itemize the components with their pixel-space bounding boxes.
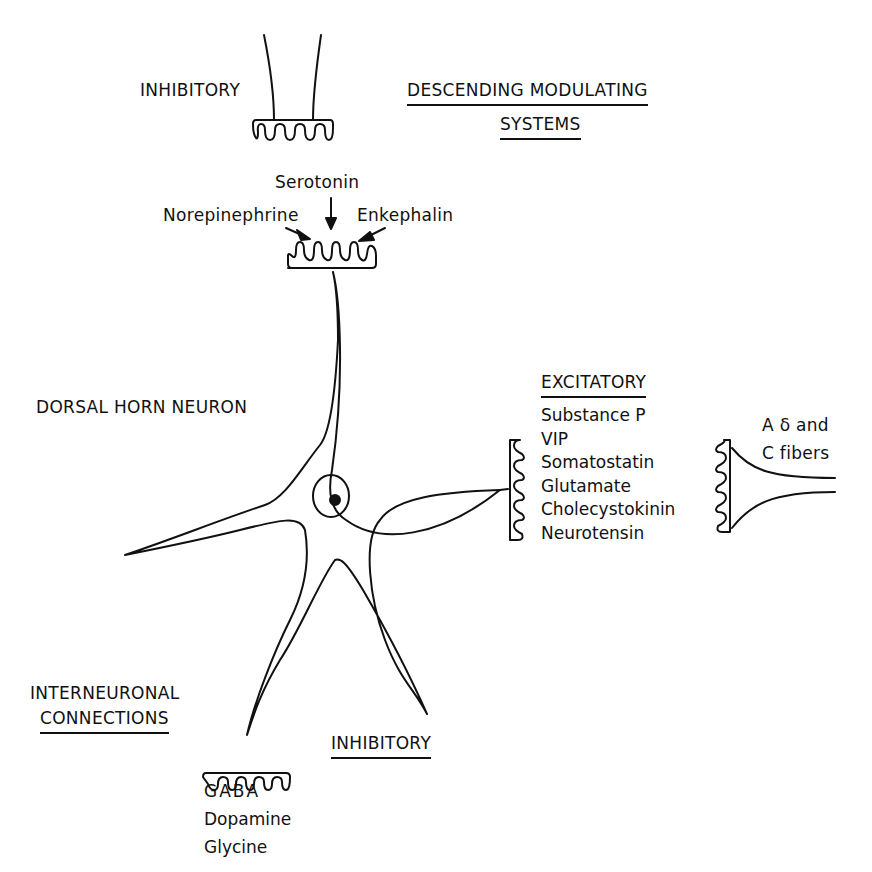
neurotransmitter-item: Dopamine: [204, 805, 291, 833]
interneuronal-label-line2: CONNECTIONS: [40, 708, 169, 734]
excitatory-label: EXCITATORY: [541, 372, 646, 398]
neurotransmitter-item: Substance P: [541, 404, 675, 428]
neuron-body-outline: [125, 272, 500, 735]
top-inhibitory-label: INHIBITORY: [140, 80, 240, 100]
descending-systems-label-line1: DESCENDING MODULATING: [407, 80, 648, 106]
fibers-label-line2: C fibers: [762, 443, 829, 463]
descending-axon: [264, 35, 321, 120]
serotonin-label: Serotonin: [275, 172, 359, 192]
neurotransmitter-item: GABA: [204, 777, 291, 805]
right-postsynaptic-terminal-icon: [500, 440, 524, 540]
enkephalin-label: Enkephalin: [357, 205, 453, 225]
neurotransmitter-item: Glutamate: [541, 475, 675, 499]
excitatory-neurotransmitter-list: Substance P VIP Somatostatin Glutamate C…: [541, 404, 675, 545]
nucleolus-icon: [330, 495, 340, 505]
neurotransmitter-item: Glycine: [204, 833, 291, 861]
bottom-neurotransmitter-list: GABA Dopamine Glycine: [204, 777, 291, 861]
bottom-inhibitory-label: INHIBITORY: [331, 733, 431, 759]
neurotransmitter-item: Somatostatin: [541, 451, 675, 475]
neurotransmitter-item: VIP: [541, 428, 675, 452]
upper-synaptic-terminal-icon: [253, 120, 333, 140]
norepinephrine-label: Norepinephrine: [163, 205, 299, 225]
neuron-drawing: [0, 0, 872, 872]
descending-systems-label-line2: SYSTEMS: [500, 114, 581, 140]
neuron-label: DORSAL HORN NEURON: [36, 397, 247, 417]
interneuronal-label-line1: INTERNEURONAL: [30, 683, 179, 703]
neurotransmitter-item: Cholecystokinin: [541, 498, 675, 522]
diagram-canvas: INHIBITORY DESCENDING MODULATING SYSTEMS…: [0, 0, 872, 872]
neurotransmitter-item: Neurotensin: [541, 522, 675, 546]
fibers-label-line1: A δ and: [762, 415, 829, 435]
lower-synaptic-terminal-icon: [288, 242, 376, 268]
